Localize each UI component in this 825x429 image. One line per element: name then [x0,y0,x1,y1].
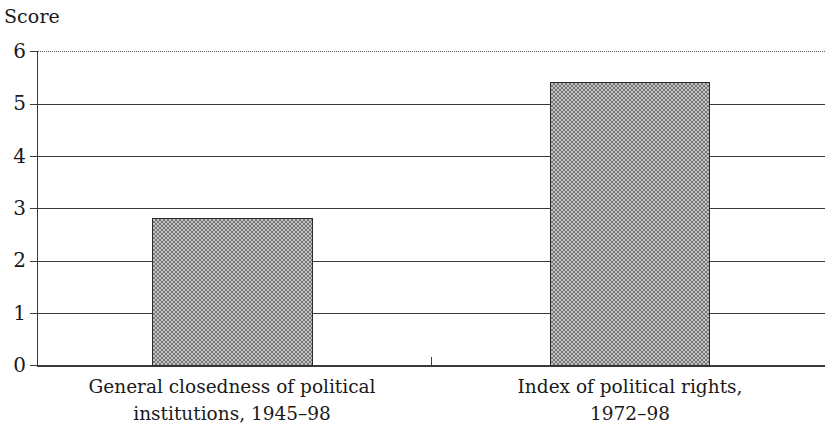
category-label-1-line-1: General closedness of political [12,373,452,400]
bar-chart: Score 0123456 General closedness of poli… [0,0,825,429]
y-tick-label-1: 1 [0,303,26,323]
category-label-2-line-2: 1972–98 [410,400,825,427]
y-tick-label-5: 5 [0,93,26,113]
plot-area: 0123456 General closedness of politicali… [0,0,825,429]
category-label-1: General closedness of politicalinstituti… [12,373,452,427]
category-label-2-line-1: Index of political rights, [410,373,825,400]
y-tick-label-0: 0 [0,355,26,375]
gridline-6 [37,51,825,52]
category-label-2: Index of political rights,1972–98 [410,373,825,427]
y-tick-label-6: 6 [0,41,26,61]
y-axis-line [37,52,38,367]
y-tick-label-3: 3 [0,198,26,218]
y-tick-label-2: 2 [0,250,26,270]
bar-2 [550,82,710,366]
category-label-1-line-2: institutions, 1945–98 [12,400,452,427]
x-axis-separator-tick [431,357,432,367]
bar-1 [152,218,313,366]
y-tick-label-4: 4 [0,146,26,166]
